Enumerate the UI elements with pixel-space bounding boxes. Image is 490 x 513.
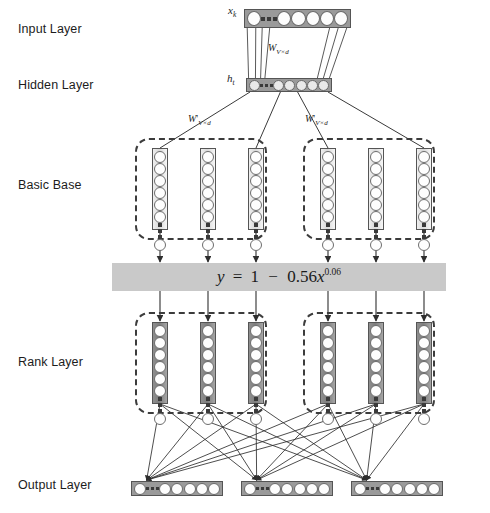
node-circle bbox=[322, 151, 334, 163]
node-circle bbox=[202, 187, 214, 199]
hidden-vector-label: ht bbox=[227, 72, 235, 87]
row-label-basic-base: Basic Base bbox=[18, 178, 82, 192]
weight-label-input-hidden: WV×d bbox=[268, 42, 289, 56]
node-circle bbox=[322, 413, 334, 425]
node-circle bbox=[250, 349, 262, 361]
row-label-rank-layer: Rank Layer bbox=[18, 355, 83, 369]
node-circle bbox=[208, 483, 220, 495]
node-circle bbox=[418, 199, 430, 211]
node-circle bbox=[154, 385, 166, 397]
node-circle bbox=[250, 325, 262, 337]
row-label-input-layer: Input Layer bbox=[18, 22, 82, 36]
node-circle bbox=[247, 11, 261, 26]
node-circle bbox=[418, 361, 430, 373]
node-circle bbox=[404, 483, 416, 495]
node-circle bbox=[154, 337, 166, 349]
node-circle bbox=[322, 325, 334, 337]
rank-layer-column-3 bbox=[248, 322, 264, 404]
basic-base-column-2 bbox=[200, 148, 216, 230]
basic-base-column-1 bbox=[152, 148, 168, 230]
output-layer-bar-3 bbox=[351, 481, 443, 496]
diagram-canvas: Input Layer Hidden Layer Basic Base Rank… bbox=[0, 0, 490, 513]
node-circle bbox=[250, 413, 262, 425]
node-circle bbox=[154, 211, 166, 223]
node-circle bbox=[202, 349, 214, 361]
node-circle bbox=[370, 239, 382, 251]
node-circle bbox=[154, 361, 166, 373]
node-circle bbox=[370, 325, 382, 337]
vertical-ellipsis bbox=[374, 397, 378, 413]
node-circle bbox=[250, 239, 262, 251]
node-circle bbox=[154, 175, 166, 187]
node-circle bbox=[322, 385, 334, 397]
node-circle bbox=[418, 151, 430, 163]
node-circle bbox=[250, 187, 262, 199]
node-circle bbox=[250, 199, 262, 211]
transform-equation-bar: y = 1 − 0.56x0.06 bbox=[112, 263, 446, 291]
vertical-ellipsis bbox=[254, 397, 258, 413]
node-circle bbox=[379, 483, 391, 495]
node-circle bbox=[322, 175, 334, 187]
node-circle bbox=[370, 199, 382, 211]
node-circle bbox=[296, 80, 307, 91]
node-circle bbox=[418, 325, 430, 337]
vertical-ellipsis bbox=[374, 223, 378, 239]
vertical-ellipsis bbox=[206, 223, 210, 239]
node-circle bbox=[418, 163, 430, 175]
node-circle bbox=[318, 483, 330, 495]
node-circle bbox=[202, 325, 214, 337]
node-circle bbox=[154, 413, 166, 425]
node-circle bbox=[354, 483, 366, 495]
node-circle bbox=[322, 163, 334, 175]
node-circle bbox=[418, 337, 430, 349]
node-circle bbox=[418, 187, 430, 199]
hidden-layer-bar bbox=[246, 78, 332, 92]
node-circle bbox=[322, 187, 334, 199]
output-layer-bar-2 bbox=[241, 481, 333, 496]
node-circle bbox=[418, 385, 430, 397]
basic-base-column-5 bbox=[368, 148, 384, 230]
node-circle bbox=[202, 199, 214, 211]
node-circle bbox=[154, 151, 166, 163]
node-circle bbox=[202, 413, 214, 425]
node-circle bbox=[370, 413, 382, 425]
node-circle bbox=[418, 211, 430, 223]
node-circle bbox=[202, 385, 214, 397]
node-circle bbox=[184, 483, 196, 495]
node-circle bbox=[202, 337, 214, 349]
node-circle bbox=[202, 175, 214, 187]
horizontal-ellipsis bbox=[261, 17, 277, 21]
node-circle bbox=[250, 361, 262, 373]
row-label-hidden-layer: Hidden Layer bbox=[18, 78, 94, 92]
wires-rank-to-output bbox=[147, 404, 424, 480]
node-circle bbox=[284, 80, 295, 91]
node-circle bbox=[318, 80, 329, 91]
node-circle bbox=[370, 385, 382, 397]
node-circle bbox=[322, 199, 334, 211]
node-circle bbox=[202, 151, 214, 163]
rank-layer-column-1 bbox=[152, 322, 168, 404]
node-circle bbox=[322, 349, 334, 361]
node-circle bbox=[322, 239, 334, 251]
node-circle bbox=[277, 11, 291, 26]
node-circle bbox=[249, 80, 260, 91]
node-circle bbox=[428, 483, 440, 495]
weight-label-hidden-base-left: W'V×d bbox=[188, 113, 211, 127]
node-circle bbox=[370, 175, 382, 187]
node-circle bbox=[418, 349, 430, 361]
node-circle bbox=[370, 187, 382, 199]
vertical-ellipsis bbox=[206, 397, 210, 413]
node-circle bbox=[154, 199, 166, 211]
node-circle bbox=[307, 80, 318, 91]
node-circle bbox=[154, 187, 166, 199]
node-circle bbox=[291, 11, 305, 26]
node-circle bbox=[154, 373, 166, 385]
node-circle bbox=[306, 483, 318, 495]
input-vector-label: xk bbox=[228, 4, 236, 19]
node-circle bbox=[250, 385, 262, 397]
node-circle bbox=[250, 373, 262, 385]
node-circle bbox=[154, 325, 166, 337]
node-circle bbox=[322, 211, 334, 223]
node-circle bbox=[202, 373, 214, 385]
node-circle bbox=[322, 373, 334, 385]
